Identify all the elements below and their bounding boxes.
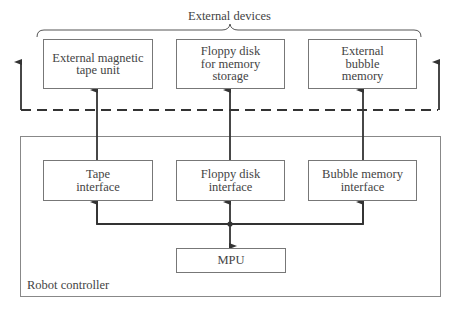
floppy-disk-interface: Floppy disk interface <box>176 160 285 201</box>
external-devices-label: External devices <box>188 9 271 24</box>
mpu-box: MPU <box>176 248 286 273</box>
bus-junction <box>227 221 232 226</box>
robot-controller-label: Robot controller <box>27 278 109 293</box>
external-bubble-memory: External bubble memory <box>308 39 417 89</box>
external-magnetic-tape-unit: External magnetic tape unit <box>43 39 153 89</box>
external-devices-brace <box>37 24 421 37</box>
floppy-disk-storage: Floppy disk for memory storage <box>176 39 285 89</box>
tape-interface: Tape interface <box>43 160 153 201</box>
bubble-memory-interface: Bubble memory interface <box>308 160 417 201</box>
